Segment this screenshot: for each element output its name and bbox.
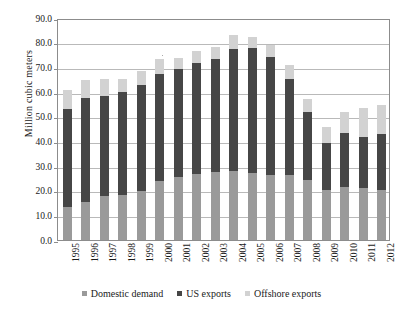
bar-segment-us-exports[interactable] <box>155 74 164 181</box>
bar-segment-us-exports[interactable] <box>100 96 109 197</box>
bar-segment-offshore-exports[interactable] <box>81 80 90 99</box>
y-tick-label: 40.0 <box>18 137 52 147</box>
bar-segment-offshore-exports[interactable] <box>303 99 312 113</box>
x-tick-label: 1998 <box>127 243 137 287</box>
bar-segment-offshore-exports[interactable] <box>266 45 275 58</box>
bar-segment-us-exports[interactable] <box>359 137 368 188</box>
legend-item[interactable]: US exports <box>177 288 231 299</box>
bar-group[interactable] <box>192 18 201 240</box>
bar-segment-us-exports[interactable] <box>303 112 312 179</box>
bar-group[interactable] <box>118 18 127 240</box>
bar-segment-us-exports[interactable] <box>63 109 72 207</box>
bar-group[interactable] <box>63 18 72 240</box>
bar-group[interactable] <box>266 18 275 240</box>
bar-segment-offshore-exports[interactable] <box>100 79 109 96</box>
y-tick-label: 90.0 <box>18 14 52 24</box>
bar-segment-offshore-exports[interactable] <box>211 47 220 60</box>
bar-group[interactable] <box>377 18 386 240</box>
x-tick-label: 2001 <box>182 243 192 287</box>
y-axis-tick-labels: 90.080.070.060.050.040.030.020.010.00.0 <box>18 0 52 311</box>
x-tick-label: 2007 <box>293 243 303 287</box>
y-tick-label: 80.0 <box>18 38 52 48</box>
bar-segment-offshore-exports[interactable] <box>248 37 257 48</box>
bar-segment-us-exports[interactable] <box>118 92 127 196</box>
bar-segment-us-exports[interactable] <box>81 98 90 201</box>
y-tick-label: 0.0 <box>18 236 52 246</box>
bar-segment-domestic-demand[interactable] <box>359 188 368 239</box>
legend-label: Domestic demand <box>91 288 163 299</box>
x-tick-label: 1996 <box>90 243 100 287</box>
bar-segment-us-exports[interactable] <box>340 133 349 186</box>
y-tick-label: 70.0 <box>18 63 52 73</box>
bar-segment-us-exports[interactable] <box>248 48 257 173</box>
bar-group[interactable] <box>137 18 146 240</box>
bar-segment-offshore-exports[interactable] <box>192 51 201 64</box>
bar-segment-us-exports[interactable] <box>266 57 275 174</box>
bar-group[interactable] <box>229 18 238 240</box>
bar-segment-offshore-exports[interactable] <box>359 108 368 138</box>
bar-segment-domestic-demand[interactable] <box>192 174 201 239</box>
y-tick-label: 50.0 <box>18 112 52 122</box>
bar-segment-domestic-demand[interactable] <box>211 172 220 239</box>
bar-segment-us-exports[interactable] <box>192 63 201 174</box>
x-tick-label: 2002 <box>201 243 211 287</box>
y-tick-label: 10.0 <box>18 211 52 221</box>
bar-group[interactable] <box>285 18 294 240</box>
bar-segment-offshore-exports[interactable] <box>377 105 386 134</box>
bar-segment-offshore-exports[interactable] <box>229 35 238 49</box>
bar-segment-offshore-exports[interactable] <box>174 58 183 69</box>
bar-group[interactable] <box>155 18 164 240</box>
chart-figure: Million cubic meters 90.080.070.060.050.… <box>0 0 403 311</box>
bar-segment-us-exports[interactable] <box>377 134 386 189</box>
bar-segment-domestic-demand[interactable] <box>285 175 294 239</box>
bar-segment-domestic-demand[interactable] <box>118 195 127 239</box>
bar-segment-domestic-demand[interactable] <box>137 191 146 240</box>
bar-group[interactable] <box>174 18 183 240</box>
x-tick-label: 2004 <box>238 243 248 287</box>
x-tick-label: 2011 <box>367 243 377 287</box>
bar-segment-domestic-demand[interactable] <box>340 187 349 240</box>
bar-group[interactable] <box>303 18 312 240</box>
bar-segment-us-exports[interactable] <box>285 79 294 175</box>
bar-group[interactable] <box>359 18 368 240</box>
bar-segment-us-exports[interactable] <box>229 49 238 171</box>
x-tick-label: 2009 <box>330 243 340 287</box>
x-tick-label: 2003 <box>219 243 229 287</box>
bar-segment-domestic-demand[interactable] <box>303 180 312 240</box>
bar-group[interactable] <box>248 18 257 240</box>
bar-segment-us-exports[interactable] <box>322 143 331 190</box>
bar-segment-us-exports[interactable] <box>137 85 146 191</box>
bar-group[interactable] <box>100 18 109 240</box>
bar-segment-offshore-exports[interactable] <box>285 65 294 79</box>
x-tick-label: 1999 <box>145 243 155 287</box>
bar-group[interactable] <box>322 18 331 240</box>
bar-segment-domestic-demand[interactable] <box>63 207 72 240</box>
bar-group[interactable] <box>211 18 220 240</box>
x-tick-label: 2006 <box>275 243 285 287</box>
bar-segment-offshore-exports[interactable] <box>155 59 164 73</box>
bar-segment-offshore-exports[interactable] <box>322 127 331 143</box>
bar-segment-domestic-demand[interactable] <box>322 190 331 239</box>
bar-segment-offshore-exports[interactable] <box>118 79 127 91</box>
bar-segment-domestic-demand[interactable] <box>377 190 386 240</box>
bar-segment-us-exports[interactable] <box>174 69 183 177</box>
x-tick-label: 2000 <box>164 243 174 287</box>
legend-item[interactable]: Offshore exports <box>245 288 321 299</box>
bar-segment-offshore-exports[interactable] <box>63 90 72 108</box>
legend-swatch-icon <box>245 291 250 296</box>
bar-segment-offshore-exports[interactable] <box>340 112 349 133</box>
legend-item[interactable]: Domestic demand <box>82 288 163 299</box>
legend-label: US exports <box>186 288 231 299</box>
bar-group[interactable] <box>340 18 349 240</box>
bar-segment-domestic-demand[interactable] <box>155 181 164 240</box>
bar-group[interactable] <box>81 18 90 240</box>
bar-segment-offshore-exports[interactable] <box>137 71 146 85</box>
bar-segment-domestic-demand[interactable] <box>81 202 90 240</box>
bar-segment-domestic-demand[interactable] <box>229 171 238 240</box>
bar-segment-domestic-demand[interactable] <box>100 196 109 239</box>
bar-segment-domestic-demand[interactable] <box>174 177 183 239</box>
bar-segment-domestic-demand[interactable] <box>266 175 275 240</box>
bar-segment-us-exports[interactable] <box>211 59 220 172</box>
bar-segment-domestic-demand[interactable] <box>248 173 257 240</box>
legend-swatch-icon <box>177 291 182 296</box>
